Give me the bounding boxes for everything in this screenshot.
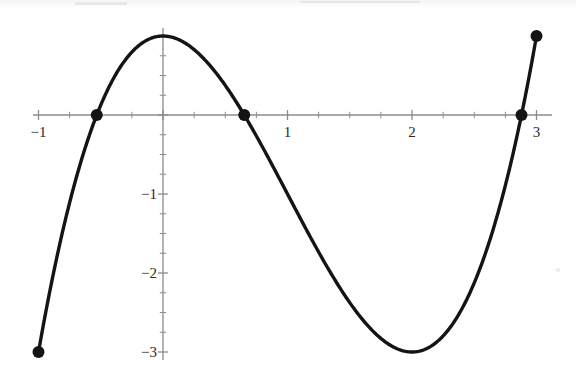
function-curve xyxy=(39,36,537,352)
y-axis-tick-label: −2 xyxy=(133,266,157,281)
data-point-right-endpoint xyxy=(531,30,543,42)
data-point-root-middle xyxy=(238,109,250,121)
data-point-root-right xyxy=(515,109,527,121)
x-axis-tick-label: 1 xyxy=(284,125,292,140)
x-axis-tick-label: 3 xyxy=(533,125,541,140)
plot-canvas xyxy=(0,0,576,380)
data-point-root-left xyxy=(91,109,103,121)
x-axis-tick-label: 2 xyxy=(408,125,416,140)
chart-figure: −1123−1−2−3 xyxy=(0,0,576,380)
x-axis-tick-label: −1 xyxy=(31,125,47,140)
axes-group xyxy=(33,28,552,360)
data-point-left-endpoint xyxy=(33,346,45,358)
y-axis-tick-label: −1 xyxy=(133,187,157,202)
y-axis-tick-label: −3 xyxy=(133,345,157,360)
